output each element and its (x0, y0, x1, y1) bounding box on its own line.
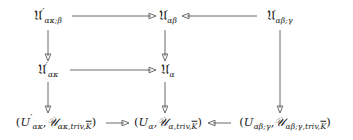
node-top-right: 𝔘αβ;γ (267, 10, 292, 23)
arrow-mid-left-to-bot-left (45, 82, 51, 113)
arrow-top-right-to-top-middle (182, 13, 257, 19)
arrow-bot-left-to-bot-middle (106, 120, 129, 126)
node-bot-middle-u-subscript: α (148, 121, 153, 130)
node-bot-middle-close-paren: ) (197, 115, 202, 129)
node-bot-left-u-subscript: ακ (33, 121, 43, 130)
node-mid-middle-symbol: 𝔘 (161, 62, 169, 77)
node-top-left-subscript: ακ;β (45, 15, 62, 24)
node-bot-middle-script-u: 𝒰 (157, 115, 168, 129)
node-bot-middle-script-sub-prefix: α,triv, (169, 121, 192, 130)
arrow-top-right-to-bot-right (277, 30, 283, 113)
node-bot-left-kbar: K (86, 121, 92, 130)
node-top-right-symbol: 𝔘 (267, 8, 275, 23)
node-mid-middle: 𝔘α (161, 64, 174, 77)
node-top-left-symbol: 𝔘 (34, 8, 42, 23)
node-bot-right-close-paren: ) (326, 115, 331, 129)
arrow-mid-middle-to-bot-middle (162, 82, 168, 113)
node-bot-left-script-subscript: ακ,triv,K (58, 121, 92, 130)
node-bot-left-u: U (20, 115, 30, 129)
node-top-middle: 𝔘αβ (159, 10, 177, 23)
node-bot-left-close-paren: ) (92, 115, 97, 129)
node-bot-middle-u: U (139, 115, 149, 129)
node-bot-right-script-u: 𝒰 (274, 115, 285, 129)
node-bot-right-script-subscript: αβ;γ,triv,K (286, 121, 327, 130)
node-bot-middle: (Uα,𝒰α,triv,K) (134, 116, 202, 129)
node-bot-right-script-sub-prefix: αβ;γ,triv, (286, 121, 321, 130)
node-top-middle-symbol: 𝔘 (159, 8, 167, 23)
arrow-top-middle-to-mid-middle (162, 30, 168, 61)
node-bot-left-script-sub-prefix: ακ,triv, (58, 121, 86, 130)
node-bot-left-script-u: 𝒰 (47, 115, 58, 129)
node-bot-right-u-subscript: αβ;γ (254, 121, 271, 130)
arrow-top-left-to-mid-left (45, 30, 51, 61)
arrow-bot-right-to-bot-middle (208, 120, 231, 126)
node-mid-left: 𝔘′ακ (38, 64, 59, 77)
node-mid-left-subscript: ακ (48, 69, 58, 78)
commutative-diagram: 𝔘′ακ;β 𝔘αβ 𝔘αβ;γ 𝔘′ακ 𝔘α (U′ακ,𝒰ακ,triv,… (0, 0, 353, 140)
node-bot-right-u: U (244, 115, 254, 129)
node-bot-right: (Uαβ;γ,𝒰αβ;γ,triv,K) (239, 116, 330, 129)
node-mid-middle-subscript: α (169, 69, 174, 78)
node-top-left: 𝔘′ακ;β (34, 10, 62, 23)
node-bot-left: (U′ακ,𝒰ακ,triv,K) (16, 116, 96, 129)
node-bot-middle-kbar: K (192, 121, 198, 130)
arrow-top-left-to-top-middle (72, 13, 156, 19)
node-top-middle-subscript: αβ (167, 15, 177, 24)
node-bot-right-kbar: K (320, 121, 326, 130)
node-mid-left-symbol: 𝔘 (38, 62, 46, 77)
arrow-mid-left-to-mid-middle (70, 67, 156, 73)
node-bot-middle-script-subscript: α,triv,K (169, 121, 198, 130)
node-top-right-subscript: αβ;γ (276, 15, 293, 24)
